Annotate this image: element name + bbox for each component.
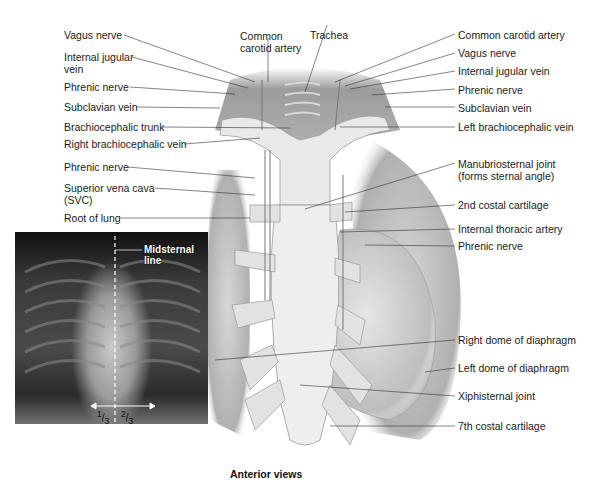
label-line: (SVC) — [64, 194, 154, 206]
label-trachea: Trachea — [310, 29, 348, 41]
label-line: Superior vena cava — [64, 182, 154, 194]
label-line: carotid artery — [240, 42, 301, 54]
fraction-two-thirds: 2/3 — [121, 409, 133, 424]
label-vagus-nerve-right: Vagus nerve — [64, 29, 122, 41]
label-brachiocephalic-trunk: Brachiocephalic trunk — [64, 121, 164, 133]
label-internal-jugular-vein-right: Internal jugular vein — [64, 51, 133, 75]
label-phrenic-nerve-left-upper: Phrenic nerve — [458, 84, 523, 96]
figure-caption: Anterior views — [230, 468, 302, 480]
label-line: Internal jugular — [64, 51, 133, 63]
chest-xray-inset: Midsternal line 1/3 2/3 — [15, 232, 208, 424]
label-line: line — [144, 255, 194, 266]
label-subclavian-vein-left: Subclavian vein — [458, 102, 532, 114]
label-phrenic-nerve-right-lower: Phrenic nerve — [64, 161, 129, 173]
label-subclavian-vein-right: Subclavian vein — [64, 101, 138, 113]
numerator: 1 — [97, 409, 102, 419]
label-root-of-lung: Root of lung — [64, 212, 121, 224]
label-left-dome-of-diaphragm: Left dome of diaphragm — [458, 362, 569, 374]
label-right-dome-of-diaphragm: Right dome of diaphragm — [458, 334, 576, 346]
label-line: Common — [240, 30, 301, 42]
label-phrenic-nerve-right-upper: Phrenic nerve — [64, 81, 129, 93]
label-common-carotid-artery-top: Common carotid artery — [240, 30, 301, 54]
label-xiphisternal-joint: Xiphisternal joint — [458, 390, 535, 402]
label-left-brachiocephalic-vein: Left brachiocephalic vein — [458, 121, 574, 133]
label-line: Manubriosternal joint — [458, 158, 555, 170]
label-internal-thoracic-artery: Internal thoracic artery — [458, 223, 562, 235]
label-common-carotid-artery-left: Common carotid artery — [458, 29, 565, 41]
midsternal-line-label: Midsternal line — [144, 244, 194, 266]
label-right-brachiocephalic-vein: Right brachiocephalic vein — [64, 138, 187, 150]
label-vagus-nerve-left: Vagus nerve — [458, 47, 516, 59]
label-superior-vena-cava: Superior vena cava (SVC) — [64, 182, 154, 206]
label-internal-jugular-vein-left: Internal jugular vein — [458, 65, 550, 77]
label-2nd-costal-cartilage: 2nd costal cartilage — [458, 199, 548, 211]
label-line: Midsternal — [144, 244, 194, 255]
label-7th-costal-cartilage: 7th costal cartilage — [458, 420, 546, 432]
label-manubriosternal-joint: Manubriosternal joint (forms sternal ang… — [458, 158, 555, 182]
numerator: 2 — [121, 409, 126, 419]
label-line: (forms sternal angle) — [458, 170, 555, 182]
denominator: 3 — [128, 416, 133, 424]
fraction-one-third: 1/3 — [97, 409, 109, 424]
denominator: 3 — [104, 416, 109, 424]
label-line: vein — [64, 63, 133, 75]
label-phrenic-nerve-left-lower: Phrenic nerve — [458, 240, 523, 252]
